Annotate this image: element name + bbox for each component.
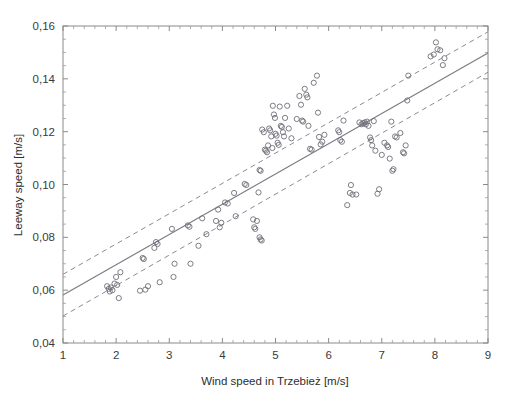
data-point — [118, 270, 123, 275]
y-tick-label: 0,04 — [33, 337, 56, 349]
data-point — [274, 133, 279, 138]
data-point — [348, 182, 353, 187]
data-point — [311, 80, 316, 85]
data-points — [104, 40, 447, 301]
data-point — [354, 192, 359, 197]
data-point — [373, 148, 378, 153]
data-point — [322, 132, 327, 137]
x-tick-label: 5 — [272, 349, 278, 361]
data-point — [272, 115, 277, 120]
data-point — [157, 280, 162, 285]
data-point — [213, 218, 218, 223]
data-point — [389, 119, 394, 124]
x-tick-label: 8 — [432, 349, 438, 361]
data-point — [244, 182, 249, 187]
y-tick-label: 0,10 — [33, 179, 55, 191]
data-point — [294, 116, 299, 121]
data-point — [270, 103, 275, 108]
data-point — [172, 261, 177, 266]
scatter-plot: 1234567890,040,060,080,100,120,140,16 Wi… — [0, 0, 506, 393]
data-point — [196, 243, 201, 248]
data-point — [371, 119, 376, 124]
y-tick-label: 0,14 — [33, 73, 56, 85]
data-point — [188, 261, 193, 266]
plot-border — [63, 26, 488, 343]
x-tick-label: 3 — [166, 349, 172, 361]
data-point — [282, 115, 287, 120]
data-point — [116, 295, 121, 300]
data-point — [169, 226, 174, 231]
data-point — [253, 226, 258, 231]
data-point — [394, 135, 399, 140]
data-point — [440, 63, 445, 68]
data-point — [398, 130, 403, 135]
y-tick-label: 0,08 — [33, 231, 55, 243]
data-point — [143, 287, 148, 292]
data-point — [316, 134, 321, 139]
confidence-band-upper — [63, 32, 488, 275]
data-point — [285, 103, 290, 108]
data-point — [401, 151, 406, 156]
data-point — [315, 110, 320, 115]
data-point — [141, 256, 146, 261]
data-point — [231, 190, 236, 195]
data-point — [297, 93, 302, 98]
data-point — [137, 288, 142, 293]
data-point — [187, 224, 192, 229]
data-point — [216, 207, 221, 212]
tick-labels: 1234567890,040,060,080,100,120,140,16 — [33, 20, 492, 361]
data-point — [289, 136, 294, 141]
data-point — [171, 274, 176, 279]
data-point — [298, 102, 303, 107]
data-point — [200, 216, 205, 221]
data-point — [286, 126, 291, 131]
axis-ticks — [63, 26, 488, 343]
data-point — [219, 220, 224, 225]
x-tick-label: 4 — [219, 349, 226, 361]
x-tick-label: 7 — [379, 349, 385, 361]
data-point — [370, 143, 375, 148]
data-point — [341, 118, 346, 123]
data-point — [379, 152, 384, 157]
data-point — [391, 167, 396, 172]
data-point — [314, 73, 319, 78]
x-tick-label: 9 — [485, 349, 491, 361]
x-axis-title: Wind speed in Trzebież [m/s] — [201, 375, 349, 387]
data-point — [114, 274, 119, 279]
regression-line — [63, 53, 488, 295]
y-tick-label: 0,16 — [33, 20, 55, 32]
data-point — [256, 190, 261, 195]
data-point — [271, 112, 276, 117]
data-point — [337, 130, 342, 135]
data-point — [433, 40, 438, 45]
data-point — [302, 86, 307, 91]
data-point — [306, 123, 311, 128]
confidence-band-lower — [63, 72, 488, 316]
data-point — [268, 128, 273, 133]
x-tick-label: 6 — [325, 349, 331, 361]
y-tick-label: 0,12 — [33, 126, 55, 138]
data-point — [279, 124, 284, 129]
plot-frame — [63, 26, 488, 343]
y-axis-title: Leeway speed [m/s] — [12, 134, 24, 236]
data-point — [345, 203, 350, 208]
x-tick-label: 1 — [60, 349, 66, 361]
data-point — [376, 187, 381, 192]
data-point — [403, 143, 408, 148]
data-point — [301, 119, 306, 124]
chart-figure: 1234567890,040,060,080,100,120,140,16 Wi… — [0, 0, 506, 393]
data-point — [309, 147, 314, 152]
x-tick-label: 2 — [113, 349, 119, 361]
data-point — [270, 145, 275, 150]
data-point — [145, 284, 150, 289]
data-point — [386, 144, 391, 149]
data-point — [277, 104, 282, 109]
fit-line — [63, 53, 488, 295]
data-point — [387, 156, 392, 161]
y-tick-label: 0,06 — [33, 284, 55, 296]
